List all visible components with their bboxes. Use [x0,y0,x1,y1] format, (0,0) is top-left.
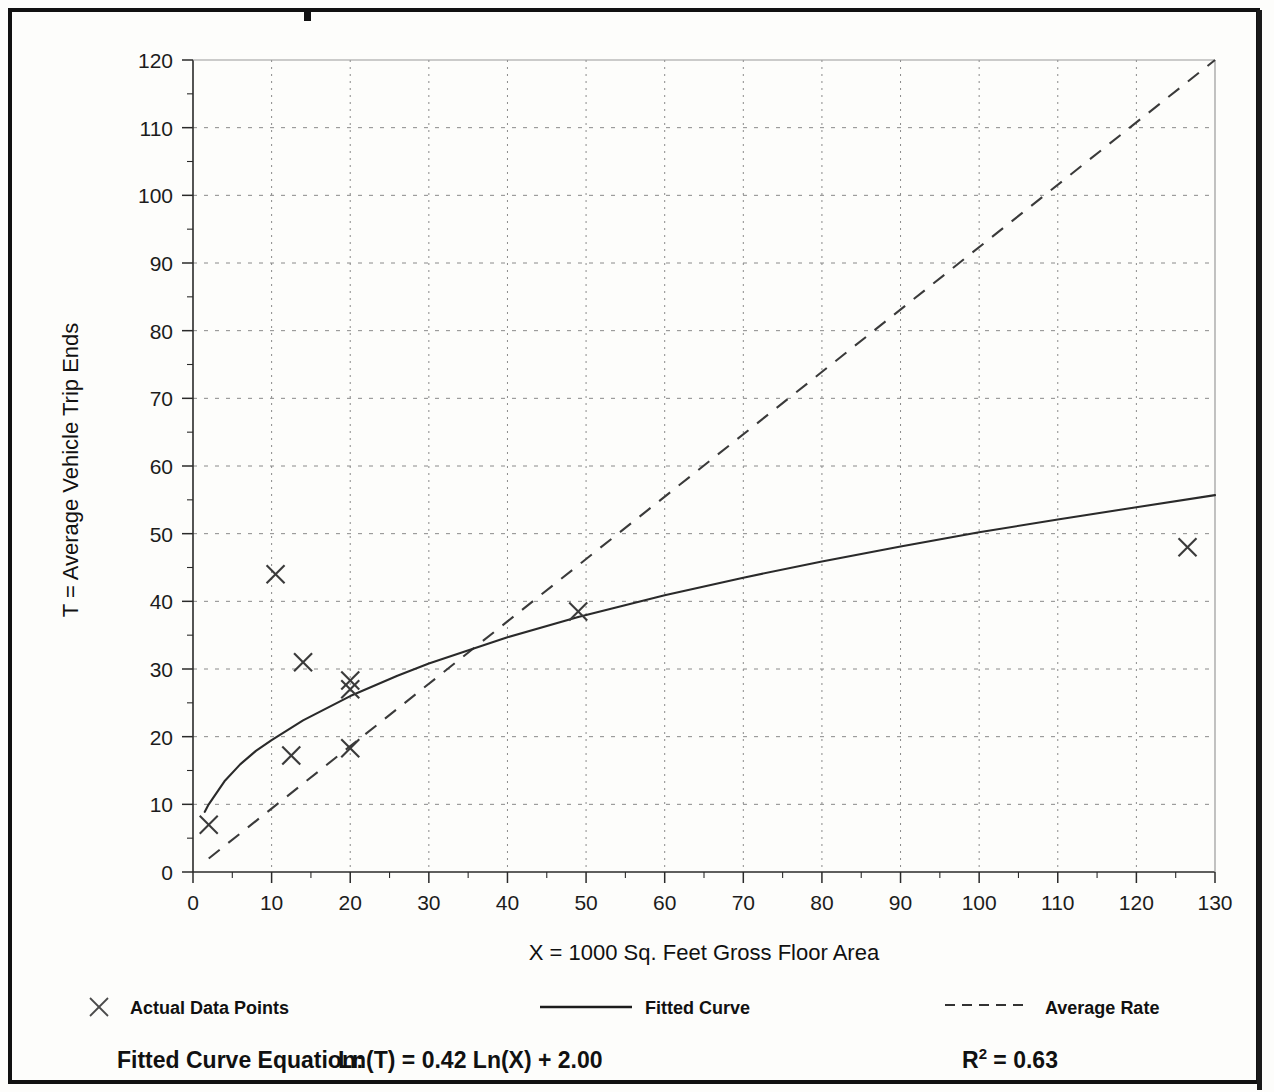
legend-label-average-rate: Average Rate [1045,998,1159,1018]
x-tick-label: 110 [1041,891,1074,914]
figure-page: 0102030405060708090100110120130010203040… [0,0,1274,1092]
y-tick-label: 110 [140,117,173,140]
data-point-marker [282,747,300,765]
x-tick-label: 100 [962,891,997,914]
y-tick-label: 20 [150,726,173,749]
x-tick-label: 90 [889,891,912,914]
x-tick-label: 80 [810,891,833,914]
x-tick-label: 70 [732,891,755,914]
y-tick-label: 50 [150,523,173,546]
x-tick-label: 30 [417,891,440,914]
r-squared: R2 = 0.63 [962,1045,1058,1073]
trip-generation-chart: 0102030405060708090100110120130010203040… [0,0,1274,1092]
legend-item-average-rate[interactable]: Average Rate [945,998,1159,1018]
series-fitted-curve [205,495,1215,812]
fitted-curve-line [205,495,1215,812]
average-rate-line [209,60,1215,858]
r-squared-exponent: 2 [979,1045,987,1062]
r-squared-base: R [962,1047,979,1073]
legend-item-fitted-curve[interactable]: Fitted Curve [540,998,750,1018]
y-tick-label: 40 [150,590,173,613]
x-tick-label: 0 [187,891,199,914]
data-point-marker [1178,538,1196,556]
y-axis-title: T = Average Vehicle Trip Ends [58,323,83,618]
legend-item-actual-data-points[interactable]: Actual Data Points [90,998,289,1018]
data-point-marker [267,565,285,583]
legend-label-fitted-curve: Fitted Curve [645,998,750,1018]
x-tick-label: 130 [1197,891,1232,914]
x-tick-label: 20 [339,891,362,914]
x-tick-label: 10 [260,891,283,914]
y-tick-label: 80 [150,320,173,343]
r-squared-value: = 0.63 [993,1047,1058,1073]
y-tick-label: 70 [150,387,173,410]
equation-expression: Ln(T) = 0.42 Ln(X) + 2.00 [338,1047,603,1073]
x-tick-label: 120 [1119,891,1154,914]
y-tick-label: 100 [138,184,173,207]
footer-equation-block: Fitted Curve Equation: Ln(T) = 0.42 Ln(X… [117,1045,1058,1073]
series-average-rate [209,60,1215,858]
x-tick-label: 50 [574,891,597,914]
chart-legend: Actual Data Points Fitted Curve Average … [90,998,1159,1018]
data-point-marker [341,672,359,690]
x-axis-title: X = 1000 Sq. Feet Gross Floor Area [529,940,880,965]
y-tick-label: 10 [150,793,173,816]
y-tick-label: 90 [150,252,173,275]
equation-label: Fitted Curve Equation: [117,1047,364,1073]
y-tick-label: 60 [150,455,173,478]
x-tick-label: 60 [653,891,676,914]
legend-label-actual-data-points: Actual Data Points [130,998,289,1018]
y-tick-label: 0 [161,861,173,884]
x-marker-icon [90,998,108,1016]
series-actual-data-points [200,538,1197,833]
x-tick-label: 40 [496,891,519,914]
data-point-marker [200,816,218,834]
y-tick-label: 120 [138,49,173,72]
y-tick-label: 30 [150,658,173,681]
